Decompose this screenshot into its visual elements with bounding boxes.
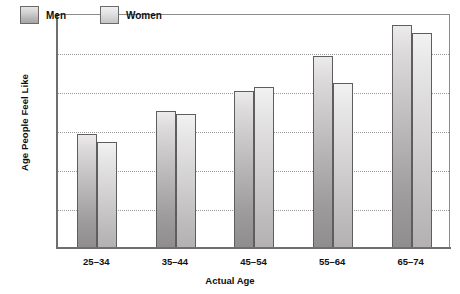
bar-group bbox=[137, 13, 216, 247]
y-axis-title: Age People Feel Like bbox=[19, 43, 30, 203]
x-axis-tick-label: 45–54 bbox=[240, 256, 266, 267]
x-axis-tick-label: 25–34 bbox=[83, 256, 109, 267]
bar-men-65-74 bbox=[392, 25, 412, 247]
bar-women-45-54 bbox=[254, 87, 274, 247]
x-axis-tick-label: 55–64 bbox=[319, 256, 345, 267]
legend: MenWomen bbox=[20, 6, 162, 24]
bar-group bbox=[58, 13, 137, 247]
bar-women-65-74 bbox=[412, 33, 432, 248]
legend-label: Women bbox=[126, 10, 162, 21]
bar-women-25-34 bbox=[97, 142, 117, 247]
legend-item-women[interactable]: Women bbox=[100, 6, 162, 24]
legend-item-men[interactable]: Men bbox=[20, 6, 66, 24]
bar-group bbox=[294, 13, 373, 247]
bar-women-35-44 bbox=[176, 114, 196, 247]
plot-area bbox=[57, 14, 450, 248]
x-axis-tick-label: 65–74 bbox=[397, 256, 423, 267]
bar-group bbox=[372, 13, 451, 247]
x-axis-tick-label: 35–44 bbox=[162, 256, 188, 267]
legend-swatch-women bbox=[100, 6, 119, 24]
bar-men-55-64 bbox=[313, 56, 333, 247]
x-axis-title: Actual Age bbox=[0, 275, 460, 286]
bar-men-35-44 bbox=[156, 111, 176, 248]
legend-label: Men bbox=[46, 10, 66, 21]
legend-swatch-men bbox=[20, 6, 39, 24]
y-axis-line bbox=[56, 13, 58, 249]
bar-men-25-34 bbox=[77, 134, 97, 247]
bar-group bbox=[215, 13, 294, 247]
bar-men-45-54 bbox=[234, 91, 254, 247]
x-axis-line bbox=[56, 247, 451, 249]
bar-women-55-64 bbox=[333, 83, 353, 247]
bar-chart: Age People Feel Like 0102030405060 25–34… bbox=[0, 0, 460, 294]
